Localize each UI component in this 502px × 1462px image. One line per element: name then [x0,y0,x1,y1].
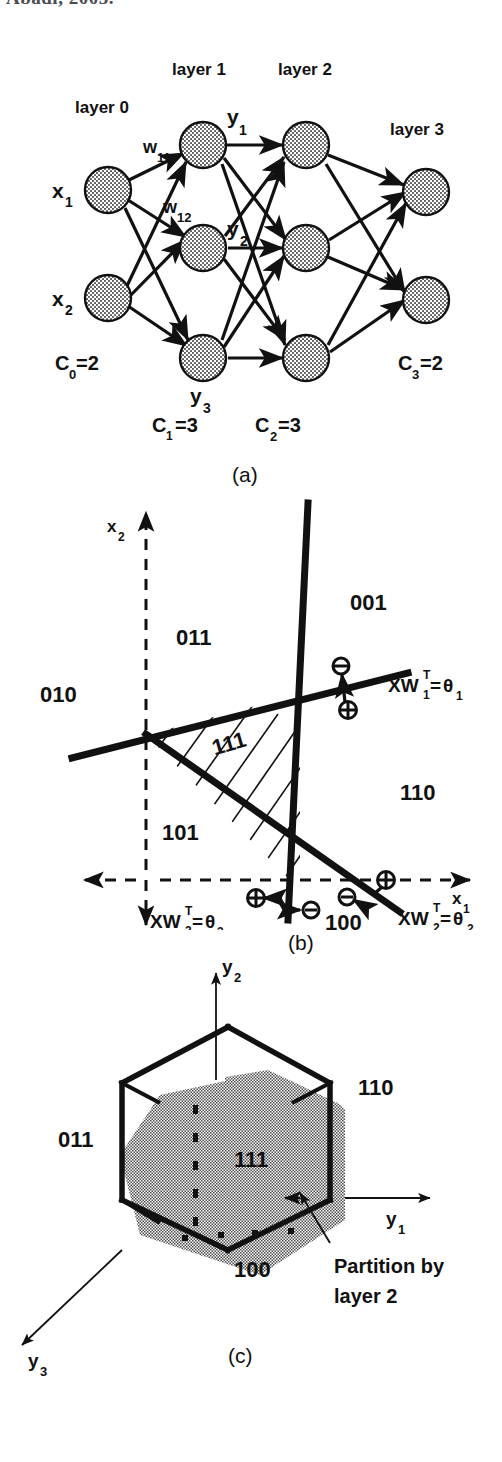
edges-layer0-to-layer1 [125,153,188,346]
label-layer1: layer 1 [172,60,226,79]
label-y2-base: y [227,217,239,240]
region-label-010: 010 [40,682,77,707]
label-w11-sub: 11 [157,150,171,165]
eq1-equals: = [430,675,441,696]
label-c3-base: C [398,352,412,374]
figure-b-partition-plot: x 2 x 1 011 010 101 001 110 100 111 XW T… [0,470,502,930]
label-c2-value: =3 [278,414,301,436]
label-w11-base: w [142,137,158,157]
cube-interior-label-111: 111 [234,1147,268,1172]
label-c3-value: =2 [420,352,443,374]
page-header-text: Abadi, 2003. [6,0,114,9]
axis-label-x1-base: x [452,889,462,908]
node-layer0-2 [85,275,131,321]
node-layer2-1 [283,122,329,168]
cube-axis-label-y1-sub: 1 [398,1222,405,1237]
label-y1-base: y [227,105,239,128]
edges-layer2-to-layer3 [326,155,406,352]
network-nodes [85,122,449,381]
label-y3-base: y [190,384,202,407]
cube-axis-label-y3-sub: 3 [40,1364,47,1379]
label-w12-sub: 12 [177,210,191,225]
label-c3-sub: 3 [412,367,419,382]
label-c1-base: C [152,414,166,436]
eq1-sub: 1 [423,688,430,702]
node-layer1-3 [180,335,226,381]
region-label-110: 110 [400,780,436,805]
axis-label-x2-sub: 2 [118,530,125,544]
node-layer0-1 [85,167,131,213]
label-input-x1-sub: 1 [65,194,73,210]
cube-axis-label-y2-sub: 2 [234,970,241,985]
node-layer1-1 [180,122,226,168]
cube-axis-label-y2-base: y [222,956,233,977]
eq1-theta: θ [443,675,453,696]
node-layer1-2 [180,225,226,271]
axis-y3 [22,1250,122,1345]
axis-label-x1-sub: 1 [463,902,470,916]
cube-vertex-label-100: 100 [234,1257,271,1282]
region-label-011: 011 [176,625,212,650]
figure-c-caption: (c) [228,1344,253,1367]
decision-line-3 [288,503,308,920]
eq1-theta-sub: 1 [456,689,463,703]
region-label-111: 111 [209,727,249,760]
label-c2-sub: 2 [270,429,277,444]
region-label-101: 101 [162,820,199,845]
label-input-x2-sub: 2 [65,302,73,318]
partition-annotation-line2: layer 2 [334,1285,397,1307]
figure-a-network-diagram: layer 0 layer 1 layer 2 layer 3 x 1 x 2 … [0,40,502,520]
cube-vertex-label-011: 011 [58,1127,94,1152]
label-layer2: layer 2 [278,60,332,79]
figure-b-axes [84,512,470,925]
figure-c-cube-diagram: 110 011 100 111 y 2 y 1 y 3 Partition by… [0,955,502,1462]
figure-page: Abadi, 2003. [0,0,502,1462]
sign-markers-line-3 [248,890,320,919]
node-layer2-3 [283,335,329,381]
label-y1-sub: 1 [239,122,247,138]
partition-surface [120,1065,345,1275]
node-layer3-1 [403,169,449,215]
label-input-x1-base: x [52,179,64,202]
label-c2-base: C [255,414,269,436]
label-layer3: layer 3 [390,120,444,139]
axis-label-x2-base: x [107,517,117,536]
page-header-remnant: Abadi, 2003. [0,0,502,16]
label-y2-sub: 2 [240,233,248,249]
region-label-001: 001 [350,590,387,615]
label-c0-value: =2 [76,352,99,374]
label-w12-base: w [162,197,178,217]
eq1-prefix: XW [388,675,419,696]
label-layer0: layer 0 [75,98,129,117]
partition-annotation-line1: Partition by [334,1255,445,1277]
node-layer3-2 [403,277,449,323]
label-input-x2-base: x [52,287,64,310]
cube-axis-label-y3-base: y [28,1350,39,1371]
cube-axis-label-y1-base: y [386,1208,397,1229]
figure-b-caption: (b) [288,931,314,954]
edges-layer1-to-layer2 [222,145,286,358]
label-c1-sub: 1 [166,429,173,443]
label-c1-value: =3 [175,414,198,436]
label-c0-base: C [55,352,69,374]
cube-vertex-label-110: 110 [358,1075,394,1100]
node-layer2-2 [283,225,329,271]
label-y3-sub: 3 [203,400,211,416]
